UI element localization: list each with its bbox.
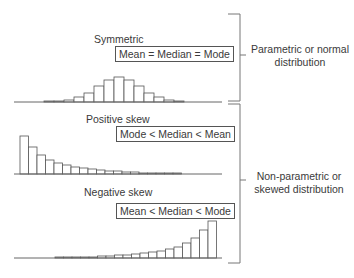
symmetric-title: Symmetric — [94, 34, 144, 45]
histogram-bar — [80, 168, 89, 174]
positive-skew-relation-box: Mode < Median < Mean — [116, 126, 235, 142]
symmetric-relation-box: Mean = Median = Mode — [115, 46, 234, 62]
negative-skew-histogram — [55, 221, 217, 258]
histogram-bar — [94, 86, 104, 102]
histogram-bar — [54, 163, 63, 174]
histogram-bar — [132, 254, 141, 258]
histogram-bar — [149, 252, 158, 258]
histogram-bar — [183, 243, 192, 258]
histogram-bar — [71, 167, 80, 174]
histogram-bar — [166, 249, 175, 258]
histogram-bar — [140, 253, 149, 258]
histogram-bar — [174, 247, 183, 258]
negative-skew-relation-box: Mean < Median < Mode — [116, 203, 235, 219]
histogram-bar — [84, 93, 94, 102]
parametric-label: Parametric or normal distribution — [247, 43, 353, 69]
histogram-bar — [124, 80, 134, 102]
histogram-bar — [104, 80, 114, 102]
histogram-bar — [29, 147, 38, 174]
histogram-bar — [88, 169, 97, 174]
parametric-label-line2: distribution — [247, 56, 353, 69]
histogram-bar — [200, 230, 209, 258]
histogram-bar — [37, 155, 46, 174]
histogram-bar — [46, 160, 55, 174]
symmetric-histogram — [44, 77, 184, 102]
negative-skew-title: Negative skew — [84, 187, 152, 198]
histogram-bar — [208, 221, 217, 258]
histogram-bar — [191, 238, 200, 258]
histogram-bar — [63, 165, 72, 174]
histogram-bar — [154, 97, 164, 102]
histogram-bar — [114, 77, 124, 102]
histogram-bar — [20, 136, 29, 174]
nonparametric-label-line1: Non-parametric or — [249, 170, 349, 183]
histogram-bar — [97, 170, 106, 174]
nonparametric-label: Non-parametric or skewed distribution — [249, 170, 349, 196]
histogram-bar — [134, 86, 144, 102]
parametric-label-line1: Parametric or normal — [247, 43, 353, 56]
nonparametric-label-line2: skewed distribution — [249, 183, 349, 196]
histogram-bar — [144, 93, 154, 102]
histogram-bar — [157, 251, 166, 258]
histogram-bar — [74, 97, 84, 102]
positive-skew-title: Positive skew — [86, 114, 150, 125]
